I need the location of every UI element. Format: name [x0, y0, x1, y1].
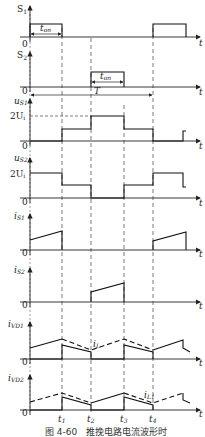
origin-label: 0: [22, 300, 28, 310]
panel-s2: S2 0 t ton T: [17, 50, 203, 97]
t-axis-label: t: [199, 358, 203, 368]
s1-label: S1: [17, 4, 27, 15]
t-axis-label: t: [199, 249, 203, 259]
t-axis-label: t: [199, 141, 203, 151]
figure-caption: 图 4-60 推挽电路电流波形时: [45, 426, 167, 437]
t1-marker: t1: [58, 414, 65, 424]
t4-marker: t4: [149, 414, 157, 424]
is1-label: iS1: [14, 211, 25, 221]
t2-marker: t2: [87, 414, 95, 424]
us2-label: uS2: [14, 153, 28, 163]
timing-diagram: S1 0 t ton S2 0 t ton T uS1 2Ui 0 t uS2: [0, 0, 205, 437]
panel-is1: iS1 0 t: [14, 211, 203, 259]
t-axis-label: t: [199, 409, 203, 419]
origin-label: 0: [22, 408, 28, 418]
origin-label: 0: [22, 141, 28, 151]
is2-label: iS2: [14, 265, 25, 275]
panel-ivd2: iVD2 0 t iL1 t1 t2 t3 t4: [8, 373, 203, 424]
panel-us1: uS1 2Ui 0 t: [10, 96, 203, 151]
origin-label: 0: [22, 248, 28, 258]
t3-marker: t3: [120, 414, 128, 424]
panel-ivd1: iVD1 0 t iL: [8, 319, 203, 368]
us1-label: uS1: [14, 96, 28, 106]
t-axis-label: t: [199, 198, 203, 208]
period-label: T: [94, 86, 101, 96]
origin-label: 0: [22, 197, 28, 207]
panel-s1: S1 0 t ton: [17, 4, 203, 49]
origin-label: 0: [22, 39, 28, 49]
us1-level-label: 2Ui: [10, 111, 25, 121]
t-axis-label: t: [199, 38, 203, 48]
t-axis-label: t: [199, 87, 203, 97]
il1-label: iL1: [144, 390, 155, 400]
origin-label: 0: [22, 86, 28, 96]
s2-label: S2: [17, 50, 27, 61]
ivd1-label: iVD1: [8, 319, 24, 329]
panel-us2: uS2 2Ui 0 t: [10, 153, 203, 208]
panel-is2: iS2 0 t: [14, 265, 203, 311]
ivd2-label: iVD2: [8, 373, 24, 383]
t-axis-label: t: [199, 301, 203, 311]
origin-label: 0: [22, 357, 28, 367]
us2-level-label: 2Ui: [10, 169, 25, 179]
il-label: iL: [93, 339, 100, 349]
